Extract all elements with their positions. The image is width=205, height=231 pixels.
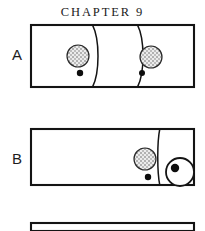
panel-c-partial (31, 223, 194, 231)
panel-b-polar-body (166, 158, 194, 186)
panel-a-nucleus-left (67, 45, 89, 67)
panel-b-polar-body-dot (171, 164, 179, 172)
panel-b-nucleus-main (134, 148, 156, 170)
panel-a-body-dot-left (77, 70, 83, 76)
panel-c-box (31, 223, 194, 231)
panel-b-body-dot-main (145, 174, 151, 180)
figure-root: CHAPTER 9 A B (0, 0, 205, 231)
diagram-canvas (0, 0, 205, 231)
panel-a-box (31, 25, 194, 87)
panel-a-nucleus-right (140, 46, 162, 68)
panel-b-cell (31, 128, 194, 186)
panel-a-body-dot-right (139, 70, 145, 76)
panel-a-cell (31, 24, 194, 88)
